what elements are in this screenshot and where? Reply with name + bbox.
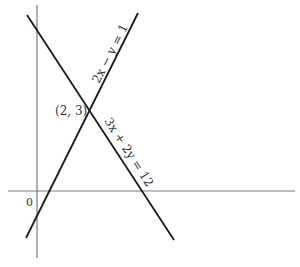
equation-label-2x-minus-y: 2x − y = 1 (89, 22, 131, 86)
linear-system-diagram: 2x − y = 1 3x + 2y = 12 (2, 3) 0 (0, 0, 300, 267)
equation-label-3x-plus-2y: 3x + 2y = 12 (101, 115, 156, 189)
line-3x-plus-2y-eq-12 (27, 15, 174, 240)
origin-label: 0 (26, 196, 33, 209)
intersection-label: (2, 3) (55, 104, 87, 118)
